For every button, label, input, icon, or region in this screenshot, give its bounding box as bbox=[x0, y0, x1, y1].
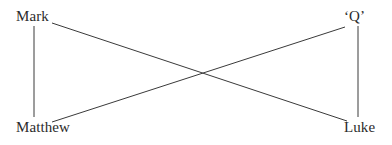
node-label-luke: Luke bbox=[344, 120, 375, 135]
node-label-mark: Mark bbox=[16, 9, 49, 24]
node-label-matthew: Matthew bbox=[16, 120, 70, 135]
edge-mark-luke bbox=[52, 23, 347, 121]
edge-matthew-q bbox=[52, 27, 345, 122]
diagram-canvas: Mark ‘Q’ Matthew Luke bbox=[0, 0, 392, 145]
node-label-q: ‘Q’ bbox=[344, 9, 365, 24]
